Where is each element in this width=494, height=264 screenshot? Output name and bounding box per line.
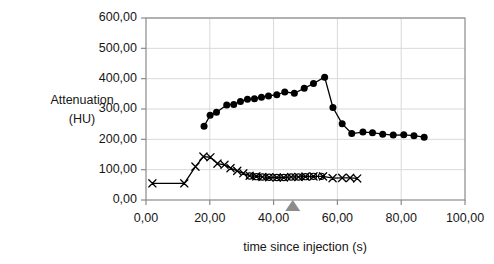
attenuation-vs-time-chart: 0,00100,00200,00300,00400,00500,00600,00… [0,0,494,264]
data-point [251,95,258,102]
data-point [329,104,336,111]
y-tick-label-600: 600,00 [99,10,137,24]
x-tick-label-80: 80,00 [386,211,417,225]
data-point [421,134,428,141]
data-point [207,112,214,119]
y-axis-title-line2: (HU) [69,112,95,126]
x-axis-title: time since injection (s) [243,240,367,254]
data-point [379,131,386,138]
data-point [321,74,328,81]
data-point [273,91,280,98]
data-point [223,102,230,109]
data-point [201,123,208,130]
y-tick-label-500: 500,00 [99,41,137,55]
y-tick-label-0: 0,00 [113,192,137,206]
data-point [244,96,251,103]
data-point [258,94,265,101]
x-tick-label-40: 40,00 [258,211,289,225]
data-point [237,98,244,105]
data-point [369,129,376,136]
data-point [281,89,288,96]
y-axis-title-line1: Attenuation [50,93,113,107]
x-tick-label-100: 100,00 [446,211,484,225]
data-point [213,109,220,116]
x-tick-label-20: 20,00 [194,211,225,225]
data-point [265,92,272,99]
x-tick-label-0: 0,00 [134,211,158,225]
data-point [390,132,397,139]
data-point [291,90,298,97]
data-point [400,131,407,138]
y-tick-label-400: 400,00 [99,71,137,85]
y-tick-label-200: 200,00 [99,132,137,146]
data-point [348,130,355,137]
data-point [230,101,237,108]
data-point [301,85,308,92]
x-tick-label-60: 60,00 [322,211,353,225]
data-point [410,132,417,139]
data-point [359,129,366,136]
data-point [310,80,317,87]
y-tick-label-100: 100,00 [99,162,137,176]
data-point [339,120,346,127]
